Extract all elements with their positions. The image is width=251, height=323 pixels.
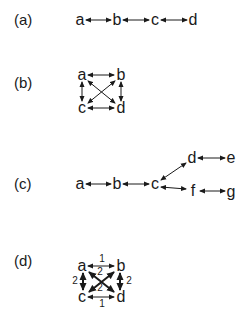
panel-b-node-d: d: [117, 100, 126, 116]
panel-c-node-c: c: [151, 176, 159, 192]
panel-b-label: (b): [14, 75, 32, 90]
panel-d-weight-right: 2: [126, 276, 132, 286]
panel-c-node-f: f: [191, 183, 195, 199]
panel-d-node-c: c: [78, 289, 86, 305]
panel-d-weight-diag-upper: 2: [97, 267, 103, 277]
panel-d-weight-diag-lower: 2: [97, 283, 103, 293]
panel-b-node-b: b: [117, 67, 126, 83]
panel-d-node-a: a: [78, 258, 87, 274]
panel-d-label: (d): [14, 253, 32, 268]
panel-c-node-e: e: [227, 150, 236, 166]
panel-c-node-a: a: [76, 176, 85, 192]
panel-d-node-d: d: [117, 289, 126, 305]
panel-b-node-a: a: [78, 67, 87, 83]
panel-d-weight-bottom: 1: [99, 299, 105, 309]
panel-a-node-d: d: [189, 12, 198, 28]
panel-d-node-b: b: [117, 258, 126, 274]
panel-c-node-b: b: [113, 176, 122, 192]
panel-b-node-c: c: [78, 100, 86, 116]
panel-a-node-c: c: [151, 12, 159, 28]
panel-c-node-g: g: [227, 184, 236, 200]
panel-d-weight-left: 2: [72, 276, 78, 286]
panel-a-node-b: b: [113, 12, 122, 28]
panel-c-node-d: d: [188, 150, 197, 166]
panel-c-label: (c): [14, 176, 32, 191]
panel-a-node-a: a: [76, 12, 85, 28]
panel-d-weight-top: 1: [99, 254, 105, 264]
panel-b-edges: [82, 75, 121, 108]
panel-a-label: (a): [14, 12, 32, 27]
